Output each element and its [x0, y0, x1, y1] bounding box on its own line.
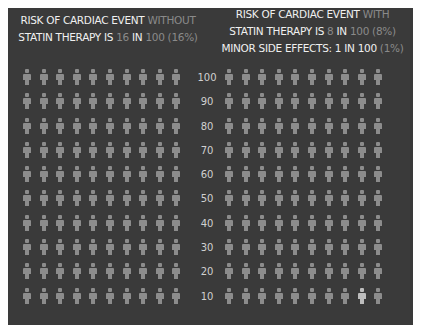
person-icon [88, 69, 98, 85]
header-with-statin: RISK OF CARDIAC EVENT WITHSTATIN THERAPY… [220, 6, 405, 57]
person-icon [122, 215, 132, 231]
person-icon [55, 93, 65, 109]
person-icon [340, 69, 350, 85]
person-icon [340, 263, 350, 279]
person-icon [307, 93, 317, 109]
person-icon [340, 93, 350, 109]
person-icon [324, 288, 334, 304]
person-icon [340, 166, 350, 182]
person-icon [257, 288, 267, 304]
person-icon [324, 215, 334, 231]
person-icon [290, 190, 300, 206]
person-icon [307, 263, 317, 279]
person-icon [171, 142, 181, 158]
person-icon [357, 190, 367, 206]
person-icon [324, 93, 334, 109]
person-icon [105, 288, 115, 304]
person-icon [357, 166, 367, 182]
header-text: RISK OF CARDIAC EVENT [20, 14, 147, 26]
person-icon [72, 239, 82, 255]
person-icon [138, 93, 148, 109]
person-icon [72, 93, 82, 109]
person-icon [324, 239, 334, 255]
person-icon [241, 215, 251, 231]
person-icon [340, 142, 350, 158]
person-icon [105, 239, 115, 255]
person-icon [155, 263, 165, 279]
person-icon [88, 239, 98, 255]
person-icon [171, 190, 181, 206]
person-icon [138, 239, 148, 255]
person-icon [55, 215, 65, 231]
person-icon [307, 69, 317, 85]
person-icon [324, 142, 334, 158]
header-text: IN [333, 25, 349, 37]
header-text: STATIN THERAPY IS [229, 25, 327, 37]
person-icon [122, 142, 132, 158]
person-icon [290, 69, 300, 85]
person-icon [307, 288, 317, 304]
person-icon [171, 118, 181, 134]
person-icon [105, 215, 115, 231]
person-icon [224, 142, 234, 158]
icon-array-without-statin [22, 69, 188, 312]
person-icon [357, 69, 367, 85]
person-icon [122, 93, 132, 109]
person-icon [138, 118, 148, 134]
person-icon [357, 215, 367, 231]
icon-array-with-statin [224, 69, 390, 312]
person-icon [241, 118, 251, 134]
person-icon [373, 190, 383, 206]
person-icon [274, 166, 284, 182]
person-icon [307, 166, 317, 182]
person-icon [39, 166, 49, 182]
person-icon [155, 166, 165, 182]
person-icon [88, 142, 98, 158]
person-icon [22, 288, 32, 304]
person-icon [307, 190, 317, 206]
person-icon [105, 118, 115, 134]
axis-tick: 90 [190, 96, 224, 120]
header-text: IN [129, 31, 145, 43]
person-icon [22, 190, 32, 206]
person-icon [324, 263, 334, 279]
person-icon [224, 166, 234, 182]
person-icon [274, 263, 284, 279]
person-icon [274, 239, 284, 255]
person-icon [39, 263, 49, 279]
person-icon [122, 263, 132, 279]
axis-tick: 60 [190, 169, 224, 193]
person-icon [340, 239, 350, 255]
person-icon [357, 239, 367, 255]
person-icon [274, 190, 284, 206]
axis-tick: 100 [190, 72, 224, 96]
person-icon [241, 166, 251, 182]
person-icon [373, 215, 383, 231]
person-icon [373, 69, 383, 85]
person-icon [39, 239, 49, 255]
person-icon [257, 190, 267, 206]
person-icon [22, 263, 32, 279]
person-icon [274, 142, 284, 158]
person-icon [290, 118, 300, 134]
person-icon [105, 93, 115, 109]
person-icon [274, 93, 284, 109]
person-icon [373, 118, 383, 134]
person-icon [88, 263, 98, 279]
header-without-statin: RISK OF CARDIAC EVENT WITHOUTSTATIN THER… [8, 12, 208, 46]
header-text: WITH [363, 8, 390, 20]
person-icon [88, 166, 98, 182]
axis-tick: 40 [190, 218, 224, 242]
header-text: STATIN THERAPY IS [18, 31, 116, 43]
header-text: (8%) [369, 25, 396, 37]
person-icon [105, 69, 115, 85]
person-icon [224, 263, 234, 279]
person-icon [274, 215, 284, 231]
person-icon [171, 69, 181, 85]
person-icon [88, 190, 98, 206]
person-icon [155, 118, 165, 134]
person-icon [88, 93, 98, 109]
person-icon [39, 69, 49, 85]
person-icon [224, 69, 234, 85]
person-icon [241, 288, 251, 304]
